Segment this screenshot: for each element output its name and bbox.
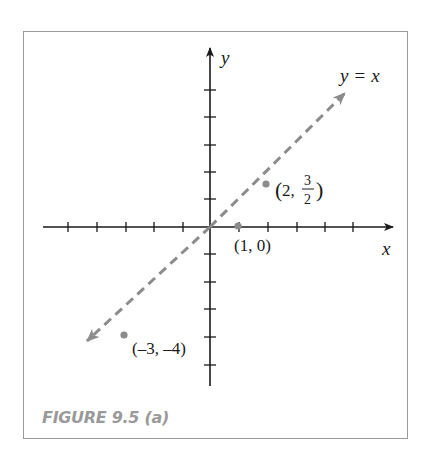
fraction-numerator: 3 [304, 173, 311, 188]
point-2-3-halves [262, 180, 269, 187]
point-neg3-neg4 [120, 331, 127, 338]
x-axis [43, 222, 393, 232]
point-label-1-0: (1, 0) [234, 236, 271, 255]
point-label-2-3-halves: ( 2, 3 2 ) [275, 173, 323, 207]
point-label-neg3-neg4: (–3, –4) [132, 339, 186, 358]
label-close-paren: ) [316, 177, 323, 202]
fraction-denominator: 2 [304, 192, 311, 207]
coordinate-plane: y x y=x (1, 0) ( 2, 3 2 ) (–3, –4) [0, 0, 425, 461]
y-axis [204, 48, 216, 386]
x-axis-label: x [381, 238, 391, 259]
point-1-0 [234, 222, 241, 229]
y-axis-label: y [219, 47, 230, 68]
label-x-part: 2, [282, 181, 295, 200]
line-y-equals-x [87, 93, 345, 341]
figure-caption: FIGURE 9.5 (a) [42, 408, 169, 427]
line-label: y=x [338, 65, 380, 86]
